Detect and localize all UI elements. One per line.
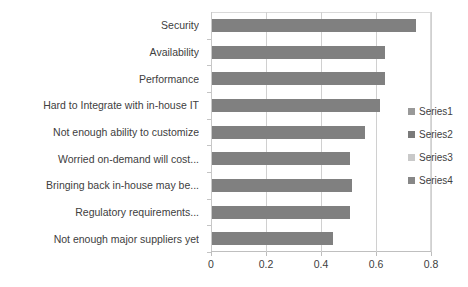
legend-item[interactable]: Series1 [408, 100, 468, 123]
bar [212, 232, 333, 245]
category-label: Not enough ability to customize [0, 126, 199, 138]
value-axis-tick-label: 0.4 [314, 258, 329, 271]
value-axis-tick [211, 252, 212, 256]
value-axis-tick-label: 0.6 [369, 258, 384, 271]
legend-swatch-icon [408, 154, 415, 161]
value-axis-labels: 00.20.40.60.8 [211, 258, 431, 274]
category-label: Bringing back in-house may be... [0, 179, 199, 191]
bar [212, 152, 350, 165]
legend-label: Series2 [419, 129, 453, 141]
category-axis-tick [207, 172, 211, 173]
category-axis-tick [207, 145, 211, 146]
plot-area [211, 12, 431, 252]
value-axis-tick [376, 252, 377, 256]
bar [212, 72, 385, 85]
category-axis-tick [207, 119, 211, 120]
legend-item[interactable]: Series3 [408, 146, 468, 169]
value-axis-tick-label: 0.8 [424, 258, 439, 271]
bar [212, 99, 380, 112]
bar [212, 126, 365, 139]
value-axis-tick-label: 0.2 [259, 258, 274, 271]
value-axis-tick [431, 252, 432, 256]
legend-item[interactable]: Series2 [408, 123, 468, 146]
bar [212, 19, 416, 32]
category-axis-tick [207, 225, 211, 226]
category-label: Security [0, 19, 199, 31]
category-axis-tick [207, 92, 211, 93]
legend-label: Series3 [419, 152, 453, 164]
bar [212, 179, 352, 192]
category-axis-tick [207, 199, 211, 200]
legend-swatch-icon [408, 108, 415, 115]
value-axis-tick-label: 0 [208, 258, 214, 271]
category-label: Not enough major suppliers yet [0, 233, 199, 245]
category-axis-tick [207, 39, 211, 40]
legend-swatch-icon [408, 131, 415, 138]
bar-chart: SecurityAvailabilityPerformanceHard to I… [0, 0, 468, 287]
legend-item[interactable]: Series4 [408, 169, 468, 192]
value-axis-tick [321, 252, 322, 256]
legend-label: Series4 [419, 175, 453, 187]
bar [212, 46, 385, 59]
category-label: Hard to Integrate with in-house IT [0, 99, 199, 111]
category-label: Performance [0, 73, 199, 85]
category-label: Availability [0, 46, 199, 58]
value-axis-tick [266, 252, 267, 256]
bar [212, 206, 350, 219]
legend-swatch-icon [408, 177, 415, 184]
chart-legend: Series1Series2Series3Series4 [408, 100, 468, 192]
category-axis-tick [207, 65, 211, 66]
category-label: Worried on-demand will cost... [0, 153, 199, 165]
category-axis-labels: SecurityAvailabilityPerformanceHard to I… [0, 12, 205, 252]
legend-label: Series1 [419, 106, 453, 118]
category-label: Regulatory requirements... [0, 206, 199, 218]
